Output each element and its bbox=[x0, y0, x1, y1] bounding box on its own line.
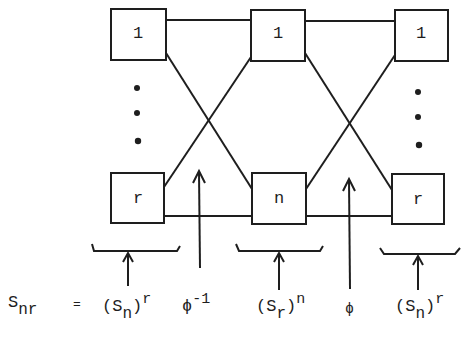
phi-inverse-arrow-shaft bbox=[199, 172, 200, 268]
bottom-box-1-label: r bbox=[111, 189, 165, 209]
formula-equals: = bbox=[73, 297, 81, 312]
bottom-box-2-label: n bbox=[252, 189, 306, 209]
formula-term-3: (Sr)n bbox=[256, 290, 305, 324]
phi-arrow-shaft bbox=[349, 180, 350, 289]
ellipsis-left bbox=[134, 85, 141, 144]
network-diagram bbox=[0, 0, 464, 337]
top-box-1-label: 1 bbox=[111, 24, 165, 44]
bottom-box-3-label: r bbox=[391, 190, 445, 210]
bracket-left bbox=[92, 244, 180, 251]
formula-term-phi: ϕ bbox=[345, 300, 354, 320]
formula-term-phi-inverse: ϕ-1 bbox=[182, 290, 210, 317]
ellipsis-right bbox=[415, 89, 422, 148]
top-box-2-label: 1 bbox=[251, 24, 305, 44]
formula-lhs: Snr bbox=[8, 293, 37, 320]
formula-term-5: (Sn)r bbox=[395, 290, 444, 324]
bracket-right bbox=[380, 248, 460, 254]
formula-term-1: (Sn)r bbox=[102, 290, 151, 324]
top-box-3-label: 1 bbox=[394, 24, 448, 44]
bracket-middle bbox=[236, 244, 323, 251]
